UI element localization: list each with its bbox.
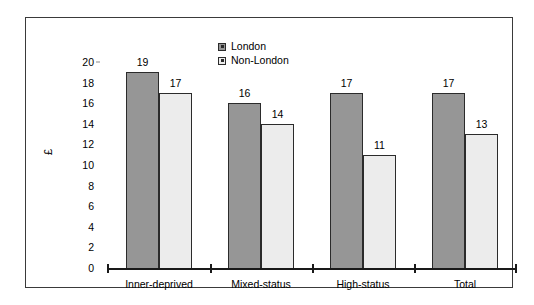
y-axis-tick-label: 18 bbox=[82, 77, 94, 88]
y-axis-tick-label: 20 bbox=[82, 57, 94, 68]
y-axis-tick-label: 16 bbox=[82, 98, 94, 109]
bar-pair: 1713 bbox=[432, 62, 498, 268]
y-axis-tick-mark bbox=[96, 62, 100, 63]
bar-value-label: 17 bbox=[443, 77, 455, 89]
bar-value-label: 16 bbox=[239, 87, 251, 99]
legend-item: London bbox=[218, 40, 289, 53]
y-axis-tick-label: 10 bbox=[82, 160, 94, 171]
bar-pair: 1917 bbox=[126, 62, 192, 268]
bar-value-label: 11 bbox=[374, 139, 385, 151]
bar-pair: 1711 bbox=[330, 62, 396, 268]
y-axis-tick-label: 0 bbox=[88, 263, 94, 274]
bar-non-london[interactable]: 14 bbox=[261, 124, 294, 268]
x-axis-category-label: Inner-deprived bbox=[125, 278, 193, 290]
bar-group: 1711 bbox=[330, 62, 396, 268]
bar-group: 1917 bbox=[126, 62, 192, 268]
bar-london[interactable]: 19 bbox=[126, 72, 159, 268]
y-axis-label: £ bbox=[36, 142, 60, 162]
y-axis-ticks: 02468101214161820 bbox=[64, 56, 100, 274]
bar-group: 1713 bbox=[432, 62, 498, 268]
x-axis-line bbox=[108, 268, 516, 270]
y-axis-tick-label: 6 bbox=[88, 201, 94, 212]
plot-area: 1917Inner-deprived1614Mixed-status1711Hi… bbox=[108, 62, 516, 268]
bar-london[interactable]: 16 bbox=[228, 103, 261, 268]
bar-value-label: 17 bbox=[341, 77, 353, 89]
bar-value-label: 17 bbox=[170, 77, 182, 89]
y-axis-tick-label: 4 bbox=[88, 221, 94, 232]
bar-group: 1614 bbox=[228, 62, 294, 268]
bar-value-label: 13 bbox=[476, 118, 488, 130]
bar-value-label: 19 bbox=[137, 56, 149, 68]
legend-item-label: London bbox=[231, 41, 266, 52]
bar-non-london[interactable]: 11 bbox=[363, 155, 396, 268]
bar-non-london[interactable]: 17 bbox=[159, 93, 192, 268]
x-axis-category-label: Mixed-status bbox=[231, 278, 291, 290]
bar-london[interactable]: 17 bbox=[330, 93, 363, 268]
x-axis-left-cap bbox=[107, 264, 109, 273]
x-axis-category-label: Total bbox=[454, 278, 476, 290]
y-axis-tick-label: 2 bbox=[88, 242, 94, 253]
y-axis-tick-label: 12 bbox=[82, 139, 94, 150]
y-axis-tick-label: 14 bbox=[82, 118, 94, 129]
legend-swatch-icon bbox=[218, 43, 226, 51]
bar-pair: 1614 bbox=[228, 62, 294, 268]
y-axis-tick-label: 8 bbox=[88, 180, 94, 191]
bar-value-label: 14 bbox=[272, 108, 284, 120]
bar-non-london[interactable]: 13 bbox=[465, 134, 498, 268]
x-axis-category-label: High-status bbox=[336, 278, 389, 290]
chart-frame: £ 02468101214161820 LondonNon-London 191… bbox=[25, 17, 513, 288]
bar-london[interactable]: 17 bbox=[432, 93, 465, 268]
